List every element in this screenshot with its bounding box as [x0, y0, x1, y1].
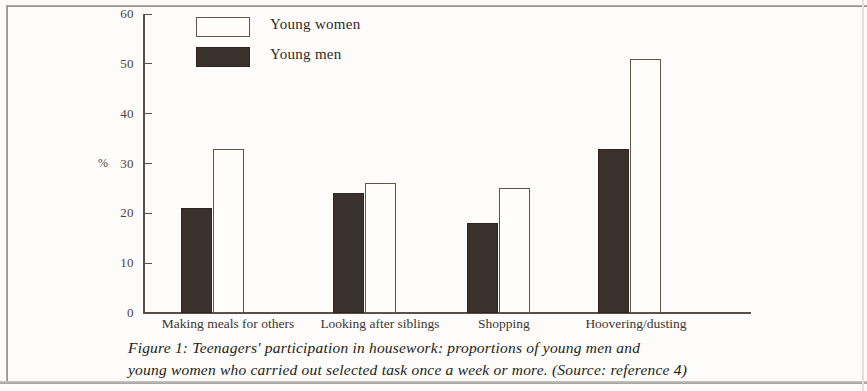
bar-young-men-1	[181, 208, 212, 313]
figure-caption-line-1: Figure 1: Teenagers' participation in ho…	[128, 337, 848, 359]
bar-young-women-4	[630, 59, 661, 313]
scanned-page: 0102030405060 % Making meals for othersL…	[0, 0, 867, 391]
page-border-bottom	[0, 381, 867, 384]
bar-young-women-3	[499, 188, 530, 313]
legend-label-young-women: Young women	[270, 16, 361, 33]
bar-young-men-4	[598, 149, 629, 313]
y-axis-tick-40	[145, 113, 152, 114]
y-axis-label: %	[98, 156, 108, 171]
y-axis-tick-50	[145, 63, 152, 64]
figure-caption: Figure 1: Teenagers' participation in ho…	[128, 337, 848, 381]
bar-young-women-1	[213, 149, 244, 313]
y-axis-tick-60	[145, 14, 152, 15]
y-axis-tick-30	[145, 163, 152, 164]
y-axis-tick-label-40: 40	[100, 106, 134, 120]
y-axis-tick-10	[145, 263, 152, 264]
y-axis-tick-label-50: 50	[100, 56, 134, 70]
figure-caption-line-2: young women who carried out selected tas…	[128, 359, 848, 381]
y-axis-tick-label-60: 60	[100, 6, 134, 20]
bar-young-men-2	[333, 193, 364, 313]
bar-young-women-2	[365, 183, 396, 313]
y-axis-line	[143, 14, 145, 314]
legend-swatch-young-men	[196, 47, 250, 67]
y-axis-tick-label-20: 20	[100, 205, 134, 219]
y-axis-tick-0	[145, 313, 152, 314]
bar-chart: 0102030405060 % Making meals for othersL…	[0, 0, 867, 340]
y-axis-tick-20	[145, 213, 152, 214]
x-axis-label-4: Hoovering/dusting	[526, 316, 746, 332]
bar-young-men-3	[467, 223, 498, 313]
legend-label-young-men: Young men	[270, 46, 342, 63]
y-axis-tick-label-10: 10	[100, 255, 134, 269]
legend-swatch-young-women	[196, 17, 250, 37]
